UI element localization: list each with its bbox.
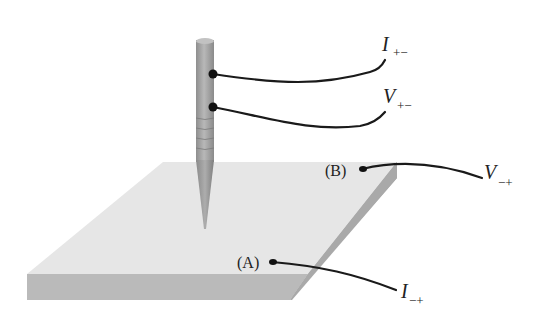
label-V-probe-sub: +− [397, 98, 412, 113]
label-I-probe: I +− [381, 33, 408, 60]
contact-dot-V-probe [209, 103, 218, 112]
label-I-probe-sub: +− [393, 45, 408, 60]
wire-I-probe [213, 60, 385, 82]
sample-plate [27, 162, 397, 300]
contact-dot-A [269, 259, 277, 265]
wire-V-probe [213, 107, 385, 127]
label-V-probe-main: V [383, 85, 398, 107]
contact-dot-B [359, 166, 367, 172]
contact-dot-I-probe [209, 70, 218, 79]
label-I-probe-main: I [381, 33, 390, 55]
label-V-sample-main: V [484, 161, 499, 183]
label-I-sample-sub: −+ [409, 293, 424, 308]
label-V-probe: V +− [383, 85, 412, 113]
diagram-canvas: I +− V +− (B) V −+ (A) I −+ [0, 0, 548, 320]
label-V-sample-sub: −+ [498, 175, 513, 190]
probe-top-cap [196, 38, 214, 44]
probe-shaft [196, 40, 214, 162]
point-label-B: (B) [325, 162, 346, 180]
point-label-A: (A) [237, 254, 259, 272]
plate-front-face [27, 274, 308, 300]
label-I-sample-main: I [400, 280, 409, 302]
